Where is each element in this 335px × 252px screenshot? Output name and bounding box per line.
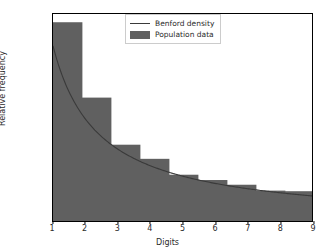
legend-label: Benford density bbox=[155, 19, 214, 28]
x-tick-label: 6 bbox=[213, 224, 218, 233]
plot-axes bbox=[52, 13, 313, 222]
figure: Relative frequency 0.000.050.100.150.200… bbox=[0, 0, 335, 252]
legend-label: Population data bbox=[155, 30, 214, 39]
x-tick-mark bbox=[248, 221, 249, 224]
x-tick-label: 5 bbox=[180, 224, 185, 233]
y-axis-label: Relative frequency bbox=[0, 51, 7, 126]
legend-item-benford-density: Benford density bbox=[130, 18, 214, 29]
legend-line-swatch bbox=[130, 23, 150, 24]
bar bbox=[111, 145, 140, 221]
chart-svg bbox=[53, 14, 312, 221]
plot-area bbox=[53, 14, 312, 221]
bar bbox=[169, 175, 198, 221]
bar bbox=[256, 191, 285, 221]
x-tick-label: 3 bbox=[115, 224, 120, 233]
x-tick-label: 9 bbox=[310, 224, 315, 233]
bar bbox=[227, 185, 256, 221]
bar bbox=[53, 22, 82, 221]
x-tick-mark bbox=[52, 221, 53, 224]
x-tick-label: 8 bbox=[278, 224, 283, 233]
x-tick-label: 4 bbox=[147, 224, 152, 233]
x-tick-label: 2 bbox=[82, 224, 87, 233]
legend-item-population-data: Population data bbox=[130, 29, 214, 40]
x-tick-mark bbox=[313, 221, 314, 224]
bar-series bbox=[53, 22, 312, 221]
chart-legend: Benford density Population data bbox=[125, 14, 221, 44]
legend-patch-swatch bbox=[130, 31, 150, 39]
bar bbox=[82, 98, 111, 221]
x-tick-mark bbox=[215, 221, 216, 224]
x-axis-label: Digits bbox=[0, 238, 335, 247]
x-tick-label: 1 bbox=[49, 224, 54, 233]
x-tick-label: 7 bbox=[245, 224, 250, 233]
x-tick-mark bbox=[85, 221, 86, 224]
x-tick-mark bbox=[150, 221, 151, 224]
x-tick-mark bbox=[280, 221, 281, 224]
x-tick-mark bbox=[183, 221, 184, 224]
bar bbox=[198, 180, 227, 221]
bar bbox=[140, 159, 169, 221]
x-tick-mark bbox=[117, 221, 118, 224]
